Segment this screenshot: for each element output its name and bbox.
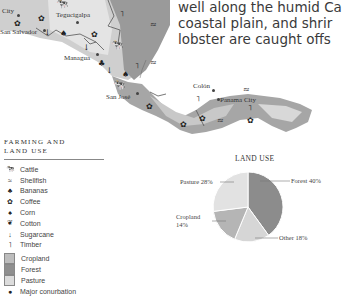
legend-item-pasture: Pasture bbox=[4, 275, 104, 286]
forest-swatch bbox=[4, 264, 15, 275]
legend-label: Pasture bbox=[21, 277, 45, 284]
pie-label-other: Other 18% bbox=[279, 234, 307, 241]
pie-slice-pasture bbox=[213, 172, 248, 211]
legend-label: Cropland bbox=[21, 255, 49, 262]
pie-label-forest: Forest 40% bbox=[291, 177, 321, 184]
legend-item-conurbation: ●Major conurbation bbox=[4, 286, 104, 297]
legend-label: Forest bbox=[21, 266, 41, 273]
conurbation-dot-icon: ● bbox=[4, 288, 16, 295]
pie-label-cropland: Cropland bbox=[176, 213, 200, 220]
pie-label-cropland-pct: 14% bbox=[176, 221, 188, 228]
legend-item-forest: Forest bbox=[4, 264, 104, 275]
legend-item-cropland: Cropland bbox=[4, 253, 104, 264]
pie-label-pasture: Pasture 28% bbox=[180, 178, 213, 185]
cropland-swatch bbox=[4, 253, 15, 264]
legend-label: Major conurbation bbox=[20, 288, 76, 295]
pasture-swatch bbox=[4, 275, 15, 286]
land-area-swatches: Cropland Forest Pasture bbox=[4, 253, 104, 286]
